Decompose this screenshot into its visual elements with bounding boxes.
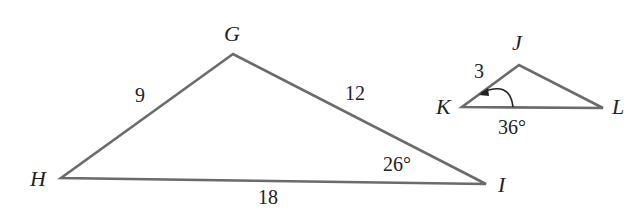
angle-label-i: 26° [383,153,411,175]
vertex-label-g: G [224,21,240,46]
triangle-ghi [61,54,486,184]
similar-triangles-diagram: G H I 9 12 18 26° J K L 3 36° [0,0,643,221]
side-label-jk: 3 [474,60,484,82]
angle-label-k: 36° [498,116,526,138]
vertex-label-j: J [512,30,523,55]
vertex-label-i: I [497,172,507,197]
side-label-gi: 12 [345,82,365,104]
side-label-gh: 9 [135,84,145,106]
vertex-label-l: L [611,94,624,119]
vertex-label-h: H [29,166,47,191]
vertex-label-k: K [435,94,452,119]
side-label-hi: 18 [258,186,278,208]
